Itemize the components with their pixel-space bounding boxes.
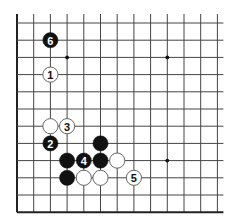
move-number: 5 — [131, 172, 137, 184]
stone-disc — [93, 153, 108, 168]
white-stone — [43, 119, 58, 134]
black-stone-2: 2 — [43, 136, 58, 151]
black-stone-6: 6 — [43, 33, 58, 48]
star-point — [65, 56, 69, 60]
stone-disc — [43, 119, 58, 134]
move-number: 2 — [47, 138, 53, 150]
go-board-diagram: 613245 — [0, 0, 238, 224]
move-number: 3 — [64, 121, 70, 133]
black-stone — [93, 153, 108, 168]
star-point — [165, 56, 169, 60]
white-stone-5: 5 — [126, 170, 141, 185]
stone-disc — [76, 170, 91, 185]
black-stone-4: 4 — [76, 153, 91, 168]
move-number: 4 — [81, 155, 88, 167]
black-stone — [93, 136, 108, 151]
white-stone-1: 1 — [43, 67, 58, 82]
stone-disc — [60, 153, 75, 168]
white-stone — [110, 153, 125, 168]
stone-disc — [110, 153, 125, 168]
stone-disc — [93, 136, 108, 151]
black-stone — [60, 170, 75, 185]
move-number: 6 — [47, 35, 53, 47]
stone-disc — [93, 170, 108, 185]
white-stone — [93, 170, 108, 185]
white-stone — [76, 170, 91, 185]
stone-disc — [60, 170, 75, 185]
black-stone — [60, 153, 75, 168]
star-point — [165, 159, 169, 163]
move-number: 1 — [47, 69, 53, 81]
white-stone-3: 3 — [60, 119, 75, 134]
